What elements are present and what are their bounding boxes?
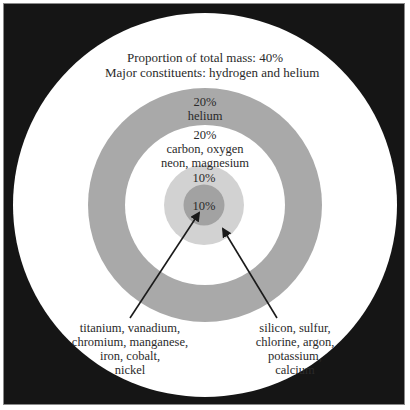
dark-core-label: 10% [174, 199, 234, 213]
dark-core-percent: 10% [174, 199, 234, 213]
ring-layer-constituents: helium [155, 109, 255, 123]
right-callout-line-2: chlorine, argon, [230, 335, 360, 349]
left-callout-line-4: nickel [60, 363, 200, 377]
left-callout-line-3: iron, cobalt, [60, 349, 200, 363]
left-callout-label: titanium, vanadium, chromium, manganese,… [60, 321, 200, 377]
middle-layer-constituents-1: carbon, oxygen [135, 142, 275, 156]
left-callout-line-2: chromium, manganese, [60, 335, 200, 349]
ring-layer-label: 20% helium [155, 95, 255, 123]
middle-layer-percent: 20% [135, 128, 275, 142]
middle-layer-constituents-2: neon, magnesium [135, 156, 275, 170]
left-callout-line-1: titanium, vanadium, [60, 321, 200, 335]
light-core-percent: 10% [174, 171, 234, 185]
ring-layer-percent: 20% [155, 95, 255, 109]
right-callout-label: silicon, sulfur, chlorine, argon, potass… [230, 321, 360, 377]
middle-layer-label: 20% carbon, oxygen neon, magnesium [135, 128, 275, 170]
right-callout-line-4: calcium [230, 363, 360, 377]
outer-layer-label: Proportion of total mass: 40% Major cons… [105, 50, 305, 80]
right-callout-line-3: potassium, [230, 349, 360, 363]
outer-layer-constituents: Major constituents: hydrogen and helium [105, 65, 305, 80]
light-core-label: 10% [174, 171, 234, 185]
outer-layer-proportion: Proportion of total mass: 40% [105, 50, 305, 65]
right-callout-line-1: silicon, sulfur, [230, 321, 360, 335]
